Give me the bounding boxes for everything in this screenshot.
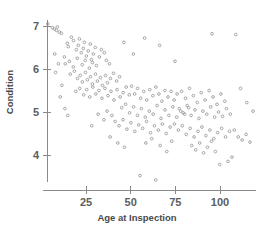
data-point	[91, 86, 94, 89]
data-point	[124, 103, 127, 106]
data-point	[85, 55, 88, 58]
data-point	[109, 136, 112, 139]
data-point	[198, 117, 201, 120]
data-point	[84, 59, 87, 62]
y-tick-label: 6	[33, 63, 39, 75]
data-point	[160, 117, 163, 120]
data-point	[161, 100, 164, 103]
data-point	[84, 71, 87, 74]
plot-canvas: 4567 255075100 Age at Inspection Conditi…	[0, 0, 262, 225]
data-point	[208, 129, 211, 132]
data-point	[233, 129, 236, 132]
data-point	[86, 78, 89, 81]
data-point	[55, 29, 58, 32]
data-point	[73, 70, 76, 73]
data-point	[90, 58, 93, 61]
data-point	[128, 93, 131, 96]
data-point	[60, 32, 63, 35]
data-point	[151, 94, 154, 97]
data-point	[143, 37, 146, 40]
data-point	[81, 81, 84, 84]
data-point	[119, 96, 122, 99]
data-point	[87, 50, 90, 53]
data-point	[181, 124, 184, 127]
data-point	[126, 128, 129, 131]
y-tick-label: 5	[33, 106, 39, 118]
data-point	[123, 41, 126, 44]
y-axis-title: Condition	[4, 70, 15, 115]
data-point	[186, 104, 189, 107]
data-point	[194, 109, 197, 112]
data-point	[237, 136, 240, 139]
data-point	[185, 133, 188, 136]
data-point	[136, 114, 139, 117]
data-point	[211, 32, 214, 35]
data-point	[64, 107, 67, 110]
data-point	[198, 142, 201, 145]
data-point	[225, 107, 228, 110]
data-point	[156, 104, 159, 107]
data-point	[205, 134, 208, 137]
data-point	[92, 53, 95, 56]
data-point	[88, 96, 91, 99]
data-point	[103, 51, 106, 54]
data-point	[115, 80, 118, 83]
data-point	[231, 156, 234, 159]
data-point	[190, 144, 193, 147]
data-point	[180, 90, 183, 93]
data-point	[94, 93, 97, 96]
data-point	[152, 113, 155, 116]
data-point	[106, 110, 109, 113]
data-point	[197, 130, 200, 133]
data-point	[67, 45, 70, 48]
data-point	[194, 148, 197, 151]
data-point	[94, 73, 97, 76]
data-point	[59, 96, 62, 99]
data-point	[98, 89, 101, 92]
data-point	[158, 93, 161, 96]
data-point	[116, 88, 119, 91]
data-point	[182, 112, 185, 115]
data-point	[98, 56, 101, 59]
data-point	[216, 131, 219, 134]
data-point	[137, 124, 140, 127]
data-point	[193, 136, 196, 139]
data-point	[78, 87, 81, 90]
data-point	[69, 73, 72, 76]
data-point	[118, 124, 121, 127]
data-point	[149, 131, 152, 134]
x-tick-label: 75	[169, 196, 181, 208]
data-point	[139, 97, 142, 100]
data-point	[157, 129, 160, 132]
data-point	[88, 67, 91, 70]
data-point	[78, 38, 81, 41]
data-point	[142, 90, 145, 93]
data-point	[228, 130, 231, 133]
data-point	[80, 51, 83, 54]
data-point	[249, 141, 252, 144]
data-point	[61, 84, 64, 87]
data-point	[74, 90, 77, 93]
data-point	[56, 26, 59, 29]
data-point	[94, 46, 97, 49]
data-point	[107, 94, 110, 97]
data-point	[101, 97, 104, 100]
data-point	[164, 89, 167, 92]
data-point	[206, 146, 209, 149]
data-point	[91, 83, 94, 86]
data-point	[245, 101, 248, 104]
data-point	[201, 126, 204, 129]
data-point	[158, 44, 161, 47]
x-axis: 255075100	[43, 186, 256, 208]
data-point	[89, 43, 92, 46]
data-point	[122, 118, 125, 121]
data-point	[227, 160, 230, 163]
data-point	[133, 130, 136, 133]
data-point	[130, 85, 133, 88]
data-point	[140, 107, 143, 110]
data-point	[178, 107, 181, 110]
x-axis-title: Age at Inspection	[97, 212, 176, 223]
data-point	[112, 72, 115, 75]
data-point	[70, 36, 73, 39]
data-point	[144, 116, 147, 119]
